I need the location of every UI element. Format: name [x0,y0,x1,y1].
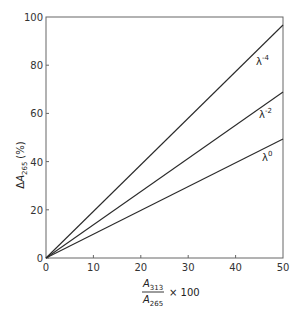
x-axis-title: A313 A265 × 100 [142,278,200,308]
x-tick-label: 40 [229,262,242,273]
plot-frame [46,17,283,258]
chart: 0 20 40 60 80 100 0 10 20 30 40 50 λ-4 λ… [0,0,298,310]
x-title-multiplier: × 100 [169,287,200,298]
series-label-lambda-minus2: λ-2 [259,107,272,120]
series-line-lambda-minus4 [46,25,283,258]
series-label-lambda-minus4: λ-4 [256,54,269,67]
series-line-lambda-minus2 [46,92,283,258]
x-tick-label: 10 [87,262,100,273]
y-axis-title: ΔA265(%) [15,141,29,188]
y-tick-label: 100 [24,12,43,23]
x-title-numerator: A313 [142,278,163,292]
series-label-lambda-0: λ0 [262,150,272,163]
series-line-lambda-0 [46,139,283,258]
x-tick-label: 50 [277,262,290,273]
x-title-denominator: A265 [142,294,163,308]
x-tick-label: 0 [43,262,49,273]
y-tick-label: 40 [30,157,43,168]
y-axis: 0 20 40 60 80 100 [24,12,49,264]
x-tick-label: 20 [134,262,147,273]
x-tick-label: 30 [182,262,195,273]
y-tick-label: 80 [30,60,43,71]
y-tick-label: 60 [30,108,43,119]
y-tick-label: 20 [30,205,43,216]
